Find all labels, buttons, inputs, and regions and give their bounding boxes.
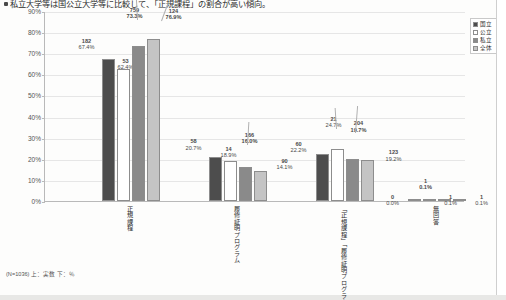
legend-item-koritsu[interactable]: 公立 — [472, 28, 498, 36]
footnote: (N=1036) 上：実数 下：％ — [6, 270, 75, 278]
legend-swatch-icon — [473, 30, 478, 35]
y-axis-tick-mark — [42, 139, 45, 140]
data-label: 9014.1% — [265, 158, 305, 170]
legend-item-shiritsu[interactable]: 私立 — [472, 36, 498, 44]
page-bottom-edge — [0, 295, 506, 300]
legend-label: 公立 — [480, 28, 492, 36]
y-axis-tick-label: 90% — [1, 8, 41, 15]
data-label-percent: 0.0% — [373, 200, 413, 206]
legend-label: 国立 — [480, 20, 492, 28]
bar-国立-履修証明プログラム[interactable] — [209, 157, 222, 201]
bar-slot — [132, 11, 145, 201]
bar-公立-「正規課程」「履修証明プログラム」以外の体系的なプログラム[interactable] — [331, 149, 344, 201]
bar-slot — [346, 11, 359, 201]
y-axis-tick-mark — [42, 181, 45, 182]
bar-slot — [209, 11, 222, 201]
bar-slot — [453, 11, 466, 201]
plot-area: 0%10%20%30%40%50%60%70%80%90%18267.4%536… — [44, 12, 464, 202]
bar-slot — [117, 11, 130, 201]
bar-slot — [254, 11, 267, 201]
y-axis-tick-label: 80% — [1, 29, 41, 36]
data-label: 18267.4% — [67, 38, 107, 50]
bar-cluster — [408, 11, 466, 201]
x-axis-label-2: 履修証明プログラム — [233, 206, 240, 264]
x-axis-label-4: 無回答 — [432, 206, 439, 225]
bar-公立-無回答[interactable] — [423, 199, 436, 201]
bar-cluster — [102, 11, 160, 201]
bar-国立-無回答[interactable] — [408, 199, 421, 201]
legend-swatch-icon — [473, 46, 478, 51]
data-label: 5820.7% — [174, 138, 214, 150]
data-label-percent: 14.1% — [265, 164, 305, 170]
bar-slot — [224, 11, 237, 201]
data-label: 6022.2% — [279, 141, 319, 153]
y-axis-tick-mark — [42, 202, 45, 203]
bar-公立-正規課程[interactable] — [117, 69, 130, 201]
bar-私立-「正規課程」「履修証明プログラム」以外の体系的なプログラム[interactable] — [346, 159, 359, 201]
y-axis-tick-label: 10% — [1, 177, 41, 184]
bar-group — [102, 11, 160, 201]
bar-cluster — [316, 11, 374, 201]
bar-slot — [331, 11, 344, 201]
y-axis-tick-label: 70% — [1, 50, 41, 57]
chart-page: 私立大学等は国公立大学等に比較して、「正規課程」の割合が高い傾向。 0%10%2… — [0, 0, 506, 300]
y-axis-tick-mark — [42, 160, 45, 161]
legend-swatch-icon — [473, 22, 478, 27]
bar-全体-正規課程[interactable] — [147, 39, 160, 201]
bar-slot — [361, 11, 374, 201]
bar-slot — [408, 11, 421, 201]
bar-slot — [438, 11, 451, 201]
y-axis-tick-label: 50% — [1, 92, 41, 99]
legend-item-kokuritsu[interactable]: 国立 — [472, 20, 498, 28]
data-label-percent: 20.7% — [174, 145, 214, 151]
legend-label: 私立 — [480, 36, 492, 44]
y-axis-tick-mark — [42, 75, 45, 76]
bar-slot — [316, 11, 329, 201]
data-label: 00.0% — [373, 194, 413, 206]
y-axis-tick-label: 20% — [1, 156, 41, 163]
bar-全体-無回答[interactable] — [453, 199, 466, 201]
y-axis-tick-label: 40% — [1, 114, 41, 121]
y-axis-tick-mark — [42, 12, 45, 13]
data-label-percent: 67.4% — [67, 44, 107, 50]
y-axis-tick-label: 0% — [1, 198, 41, 205]
bar-group — [408, 11, 466, 201]
y-axis-tick-label: 30% — [1, 135, 41, 142]
bar-全体-履修証明プログラム[interactable] — [254, 171, 267, 201]
bar-私立-正規課程[interactable] — [132, 46, 145, 201]
data-label-percent: 22.2% — [279, 147, 319, 153]
page-right-gutter — [496, 0, 506, 300]
x-axis-label-3: 「正規課程」「履修証明プログラム」以外の体系的なプログラム — [340, 206, 347, 300]
y-axis-tick-mark — [42, 54, 45, 55]
y-axis-tick-mark — [42, 96, 45, 97]
bar-group — [316, 11, 374, 201]
bar-group — [209, 11, 267, 201]
y-axis-tick-label: 60% — [1, 71, 41, 78]
page-headline: 私立大学等は国公立大学等に比較して、「正規課程」の割合が高い傾向。 — [4, 0, 474, 11]
x-axis-label-1: 正規課程 — [126, 206, 133, 232]
bar-slot — [147, 11, 160, 201]
bar-私立-無回答[interactable] — [438, 199, 451, 201]
y-axis-tick-mark — [42, 118, 45, 119]
bar-公立-履修証明プログラム[interactable] — [224, 161, 237, 201]
legend-label: 全体 — [480, 44, 492, 52]
bullet-icon — [4, 2, 8, 6]
bar-私立-履修証明プログラム[interactable] — [239, 167, 252, 201]
bar-slot — [102, 11, 115, 201]
y-axis-tick-mark — [42, 33, 45, 34]
bar-国立-正規課程[interactable] — [102, 59, 115, 201]
bar-国立-「正規課程」「履修証明プログラム」以外の体系的なプログラム[interactable] — [316, 154, 329, 201]
bar-cluster — [209, 11, 267, 201]
legend-item-zentai[interactable]: 全体 — [472, 44, 498, 52]
bar-slot — [239, 11, 252, 201]
legend-swatch-icon — [473, 38, 478, 43]
bar-slot — [423, 11, 436, 201]
